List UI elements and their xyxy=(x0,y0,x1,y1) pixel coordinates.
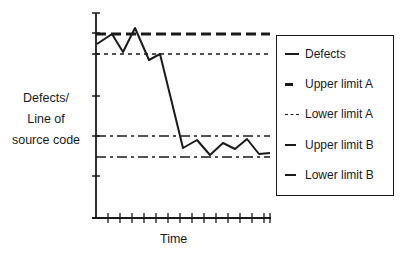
solid-line-swatch-icon xyxy=(285,53,299,55)
legend: Defects Upper limit A Lower limit A Uppe… xyxy=(276,35,394,196)
y-axis-label-line-2: Line of xyxy=(2,109,90,130)
y-axis-label-line-1: Defects/ xyxy=(2,88,90,109)
legend-label: Upper limit B xyxy=(305,138,374,152)
short-dash-swatch-icon xyxy=(285,114,299,115)
y-axis-label: Defects/ Line of source code xyxy=(2,88,90,151)
y-axis-label-line-3: source code xyxy=(2,130,90,151)
legend-item-lower-limit-b: Lower limit B xyxy=(285,168,374,182)
legend-label: Lower limit A xyxy=(305,107,373,121)
legend-item-defects: Defects xyxy=(285,47,346,61)
legend-item-lower-limit-a: Lower limit A xyxy=(285,107,373,121)
legend-label: Lower limit B xyxy=(305,168,374,182)
legend-label: Defects xyxy=(305,47,346,61)
dash-dot-swatch-icon xyxy=(285,144,296,146)
dash-dot-swatch-icon xyxy=(285,174,296,176)
long-dash-swatch-icon xyxy=(285,83,293,86)
legend-item-upper-limit-a: Upper limit A xyxy=(285,77,373,91)
x-axis-label: Time xyxy=(160,232,187,246)
legend-item-upper-limit-b: Upper limit B xyxy=(285,138,374,152)
legend-label: Upper limit A xyxy=(305,77,373,91)
